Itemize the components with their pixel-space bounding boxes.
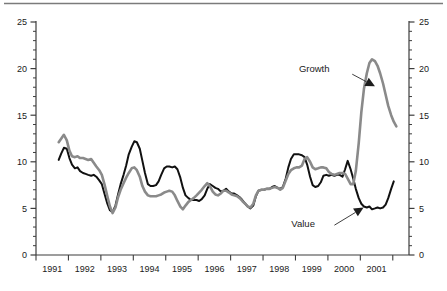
x-axis-tick-label: 1993	[107, 264, 127, 274]
x-axis-tick-label: 2000	[334, 264, 354, 274]
x-axis-tick-label: 1999	[302, 264, 322, 274]
x-axis-tick-label: 1996	[204, 264, 224, 274]
x-axis-tick-label: 1992	[75, 264, 95, 274]
right-axis-tick-label: 0	[419, 250, 424, 260]
x-axis-tick-label: 1995	[172, 264, 192, 274]
x-axis-tick-labels: 1991199219931994199519961997199819992000…	[42, 264, 386, 274]
line-chart: 0510152025 0510152025 199119921993199419…	[0, 0, 447, 291]
chart-figure: 0510152025 0510152025 199119921993199419…	[0, 0, 447, 291]
x-axis-tick-label: 2001	[367, 264, 387, 274]
left-axis-tick-label: 15	[17, 111, 27, 121]
x-axis-tick-label: 1994	[140, 264, 160, 274]
right-axis-tick-label: 15	[419, 111, 429, 121]
x-axis-tick-label: 1991	[42, 264, 62, 274]
left-axis-tick-label: 25	[17, 17, 27, 27]
left-axis-tick-label: 5	[22, 204, 27, 214]
right-axis-tick-label: 5	[419, 204, 424, 214]
annotation-label-value: Value	[291, 218, 315, 229]
left-axis-tick-label: 0	[22, 250, 27, 260]
right-axis-tick-label: 10	[419, 157, 429, 167]
x-axis-tick-label: 1997	[237, 264, 257, 274]
annotation-label-growth: Growth	[299, 63, 330, 74]
x-axis-tick-label: 1998	[269, 264, 289, 274]
right-axis-tick-label: 20	[419, 64, 429, 74]
right-axis-tick-label: 25	[419, 17, 429, 27]
left-axis-tick-label: 10	[17, 157, 27, 167]
left-axis-tick-label: 20	[17, 64, 27, 74]
